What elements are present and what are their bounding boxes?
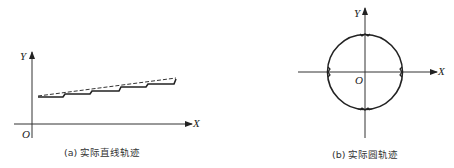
circle-trajectory-diagram bbox=[298, 8, 437, 138]
ideal-line bbox=[38, 78, 176, 96]
caption-a: (a) 实际直线轨迹 bbox=[64, 145, 140, 159]
y-axis-label-b: Y bbox=[354, 7, 360, 19]
y-axis-label-a: Y bbox=[20, 50, 26, 62]
origin-label-a: O bbox=[22, 128, 30, 140]
staircase-path bbox=[38, 79, 176, 97]
x-axis-label-a: X bbox=[193, 117, 200, 129]
linear-trajectory-diagram bbox=[14, 52, 192, 138]
origin-label-b: O bbox=[355, 74, 363, 86]
diagram-canvas bbox=[0, 0, 454, 168]
caption-b: (b) 实际圆轨迹 bbox=[332, 147, 398, 161]
x-axis-label-b: X bbox=[438, 65, 445, 77]
